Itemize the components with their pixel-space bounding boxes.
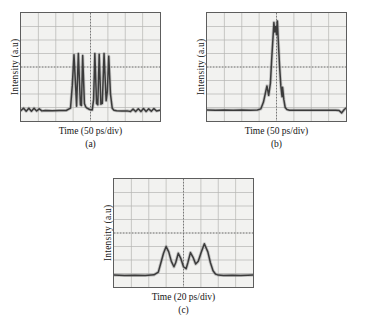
panel-a-y-axis-label: Intensity (a.u) [8,12,20,122]
panel-c: Intensity (a.u) Time (20 ps/div) (c) [101,178,254,315]
panel-a-caption-letter: (a) [20,139,161,149]
panel-b-scope-screen [206,12,347,122]
panel-a-scope-screen [20,12,161,122]
panel-a-trace-svg [21,13,160,121]
panel-c-y-axis-label: Intensity (a.u) [101,178,113,288]
panel-c-scope-screen [113,178,254,288]
panel-b-caption-letter: (b) [206,139,347,149]
panel-a: Intensity (a.u) Time (50 ps/div) (a) [8,12,161,149]
panel-b-plot-row: Intensity (a.u) Time (50 ps/div) (b) [194,12,347,149]
panel-b-trace-svg [207,13,346,121]
panel-c-trace-svg [114,179,253,287]
panel-b-y-axis-label: Intensity (a.u) [194,12,206,122]
panel-c-caption-letter: (c) [113,305,254,315]
panel-b: Intensity (a.u) Time (50 ps/div) (b) [194,12,347,149]
panel-a-x-axis-label: Time (50 ps/div) [20,126,161,136]
panel-a-plot-row: Intensity (a.u) Time (50 ps/div) (a) [8,12,161,149]
panel-b-x-axis-label: Time (50 ps/div) [206,126,347,136]
panel-c-x-axis-label: Time (20 ps/div) [113,292,254,302]
panel-c-plot-row: Intensity (a.u) Time (20 ps/div) (c) [101,178,254,315]
